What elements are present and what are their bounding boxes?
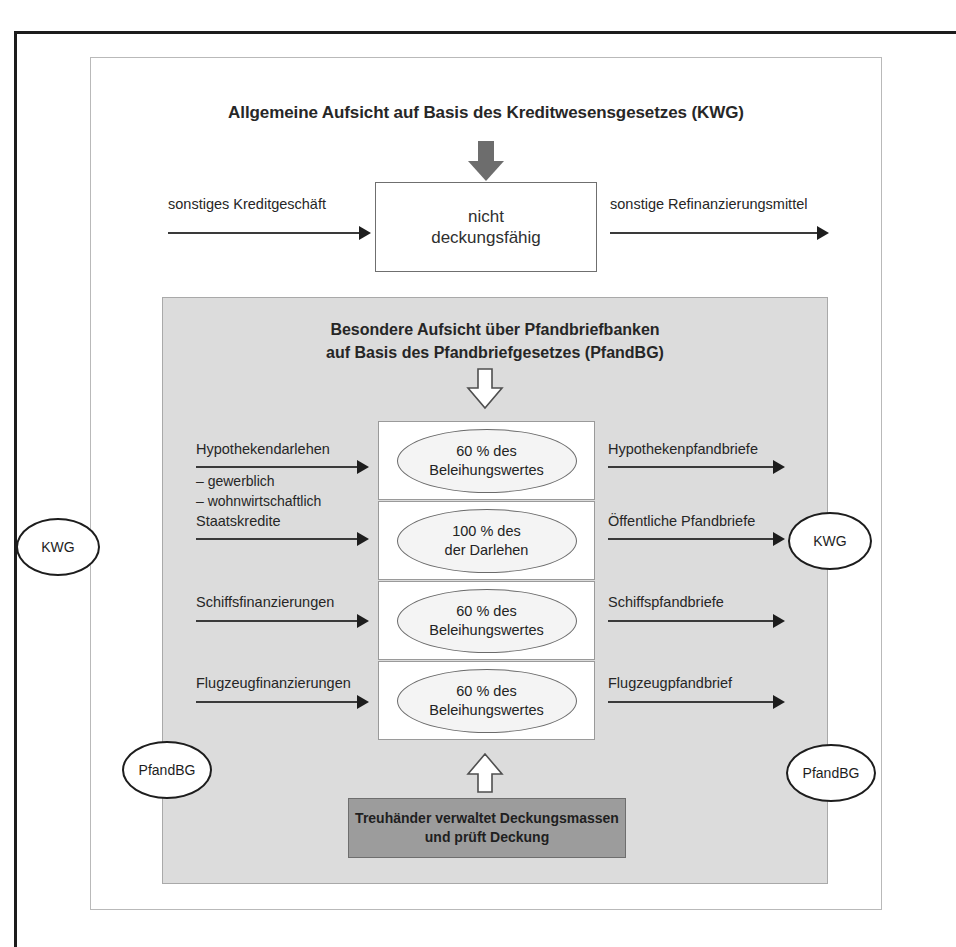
row-4-right-arrow — [608, 701, 774, 703]
coverage-box-1: 60 % des Beleihungswertes — [378, 421, 595, 500]
arrow-shaft — [478, 141, 494, 163]
top-left-arrow — [168, 232, 360, 234]
coverage-line2: Beleihungswertes — [429, 702, 543, 718]
page-border-top — [14, 31, 956, 34]
pfandbg-section-title: Besondere Aufsicht über Pfandbriefbanken… — [162, 318, 828, 364]
row-3-right-arrow — [608, 620, 774, 622]
coverage-ellipse-3: 60 % des Beleihungswertes — [397, 589, 577, 653]
coverage-line2: Beleihungswertes — [429, 622, 543, 638]
badge-pfandbg-left: PfandBG — [122, 741, 212, 799]
row-4-left-arrow — [196, 701, 358, 703]
coverage-ellipse-2-text: 100 % des der Darlehen — [445, 522, 529, 560]
row-2-right-arrow — [608, 538, 774, 540]
coverage-ellipse-1: 60 % des Beleihungswertes — [397, 429, 577, 493]
row-2-right-label: Öffentliche Pfandbriefe — [608, 513, 755, 529]
coverage-line2: der Darlehen — [445, 542, 529, 558]
row-1-left-label: Hypothekendarlehen — [196, 441, 330, 457]
kwg-section-title: Allgemeine Aufsicht auf Basis des Kredit… — [90, 103, 882, 123]
top-left-arrow-label: sonstiges Kreditgeschäft — [168, 196, 326, 212]
non-eligible-box: nicht deckungsfähig — [375, 182, 597, 272]
coverage-line2: Beleihungswertes — [429, 462, 543, 478]
row-2-left-arrow — [196, 538, 358, 540]
row-3-left-arrow — [196, 620, 358, 622]
coverage-line1: 60 % des — [456, 603, 516, 619]
badge-pfandbg-right: PfandBG — [786, 744, 876, 802]
arrow-head — [468, 161, 504, 181]
row-1-left-arrow — [196, 466, 358, 468]
trustee-box: Treuhänder verwaltet Deckungsmassen und … — [348, 798, 626, 858]
arrow-down-dark-icon — [468, 141, 504, 181]
badge-kwg-right: KWG — [788, 512, 872, 570]
page-border-left — [14, 31, 17, 947]
coverage-ellipse-4-text: 60 % des Beleihungswertes — [429, 682, 543, 720]
row-1-right-label: Hypothekenpfandbriefe — [608, 441, 758, 457]
row-1-right-arrow — [608, 466, 774, 468]
arrow-down-white-icon — [466, 368, 504, 410]
row-4-right-label: Flugzeugpfandbrief — [608, 675, 732, 691]
coverage-ellipse-4: 60 % des Beleihungswertes — [397, 669, 577, 733]
coverage-line1: 100 % des — [452, 523, 521, 539]
row-3-left-label: Schiffsfinanzierungen — [196, 594, 334, 610]
arrow-up-white-icon — [466, 752, 504, 794]
row-2-left-label: Staatskredite — [196, 513, 281, 529]
row-4-left-label: Flugzeugfinanzierungen — [196, 675, 351, 691]
pfandbg-title-line2: auf Basis des Pfandbriefgesetzes (PfandB… — [162, 341, 828, 364]
coverage-line1: 60 % des — [456, 443, 516, 459]
pfandbg-title-line1: Besondere Aufsicht über Pfandbriefbanken — [162, 318, 828, 341]
coverage-box-4: 60 % des Beleihungswertes — [378, 661, 595, 740]
badge-kwg-left: KWG — [16, 518, 100, 576]
coverage-ellipse-2: 100 % des der Darlehen — [397, 509, 577, 573]
coverage-line1: 60 % des — [456, 683, 516, 699]
top-right-arrow-label: sonstige Refinanzierungsmittel — [610, 196, 807, 212]
row-1-left-sublist: – gewerblich – wohnwirtschaftlich — [196, 472, 321, 512]
coverage-ellipse-3-text: 60 % des Beleihungswertes — [429, 602, 543, 640]
coverage-box-3: 60 % des Beleihungswertes — [378, 581, 595, 660]
row-3-right-label: Schiffspfandbriefe — [608, 594, 724, 610]
coverage-box-2: 100 % des der Darlehen — [378, 501, 595, 580]
top-right-arrow — [610, 232, 818, 234]
coverage-ellipse-1-text: 60 % des Beleihungswertes — [429, 442, 543, 480]
